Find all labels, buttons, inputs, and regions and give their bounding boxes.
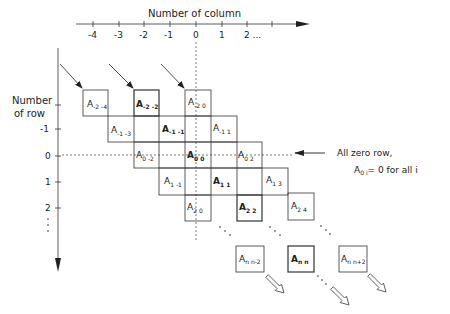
- y-tick: -1: [40, 124, 49, 134]
- hollow-arrow-icon: [366, 272, 389, 295]
- hollow-arrows: [264, 272, 389, 308]
- diagonal-arrow-icon: [161, 64, 184, 88]
- cell-ann+2: An n+2: [341, 254, 366, 265]
- cell-a-2-2: A-2 -2: [136, 99, 158, 110]
- x-tick: 2 ...: [244, 30, 261, 40]
- x-tick: 1: [219, 30, 225, 40]
- x-axis-title: Number of column: [148, 8, 241, 19]
- zero-row-annotation: All zero row, A0 i= 0 for all i: [295, 148, 418, 176]
- cell-a24: A2 4: [291, 201, 307, 213]
- x-tick: -3: [114, 30, 123, 40]
- diagonal-arrow-icon: [60, 64, 82, 88]
- cell-a-1-3: A-1 -3: [111, 125, 131, 137]
- y-tick: 1: [45, 177, 51, 187]
- y-tick: 0: [45, 151, 51, 161]
- y-axis-title-line1: Number: [12, 95, 53, 106]
- x-tick: -1: [164, 30, 173, 40]
- x-axis-arrow-icon: [296, 21, 310, 27]
- cell-a22: A2 2: [239, 202, 256, 214]
- y-axis-arrow-icon: [55, 258, 61, 272]
- hollow-arrow-icon: [329, 285, 352, 308]
- y-axis-title-line2: of row: [14, 108, 45, 119]
- banded-matrix-diagram: Number of column -4 -3 -2 -1 0 1 2 ... N…: [0, 0, 450, 314]
- y-tick: 2: [45, 203, 51, 213]
- y-axis: Number of row -1 0 1 2: [12, 48, 61, 272]
- diagonal-arrow-icon: [109, 64, 133, 88]
- cell-a20: A2 0: [187, 202, 203, 214]
- cell-a-20: A-2 0: [188, 97, 206, 109]
- diagonal-arrows: [60, 64, 184, 88]
- cell-a-11: A-1 1: [213, 123, 231, 135]
- cell-a1-1: A1 -1: [164, 176, 182, 188]
- y-axis-ellipsis: [47, 218, 49, 232]
- x-tick: 0: [193, 30, 199, 40]
- annotation-line2: A0 i= 0 for all i: [354, 165, 418, 176]
- cell-a02: A0 2: [238, 150, 254, 162]
- cell-a11: A1 1: [213, 176, 230, 188]
- hollow-arrow-icon: [264, 273, 287, 296]
- cell-a-2-4: A-2 -4: [87, 99, 107, 110]
- x-tick: -4: [88, 30, 97, 40]
- cell-labels: A-2 -4 A-2 -2 A-2 0 A-1 -3 A-1 -1 A-1 1 …: [87, 97, 366, 265]
- cell-a13: A1 3: [266, 175, 282, 187]
- annotation-line1: All zero row,: [337, 148, 392, 158]
- x-axis: Number of column -4 -3 -2 -1 0 1 2 ...: [76, 8, 310, 40]
- x-tick: -2: [139, 30, 148, 40]
- cell-a-1-1: A-1 -1: [162, 124, 184, 135]
- cell-a0-2: A0 -2: [136, 150, 154, 162]
- cell-ann-2: An n-2: [239, 254, 261, 265]
- cell-ann: An n: [291, 254, 309, 265]
